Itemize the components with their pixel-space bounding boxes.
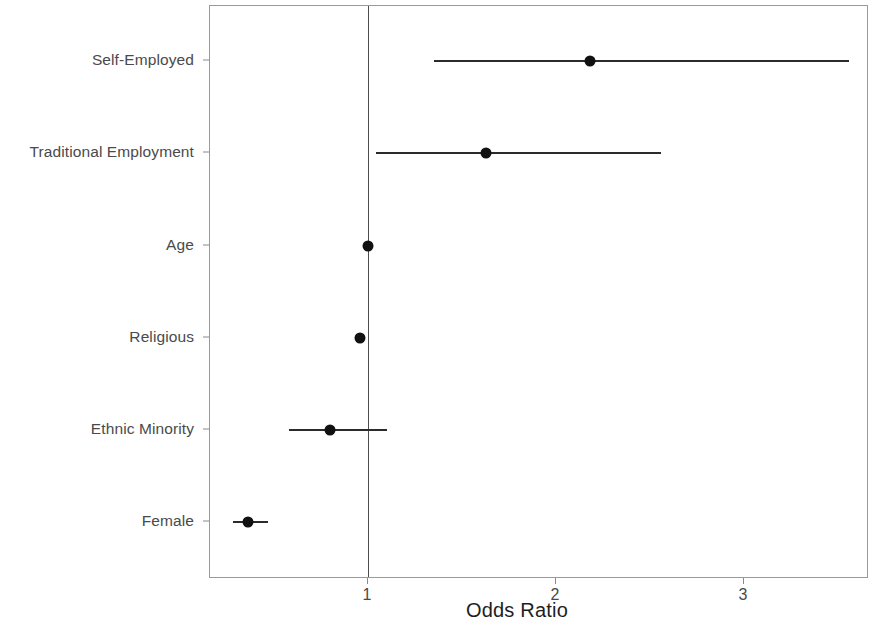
data-point-marker bbox=[242, 517, 253, 528]
plot-area bbox=[210, 6, 867, 577]
x-axis-title-text: Odds Ratio bbox=[466, 599, 568, 621]
y-axis-tick-label: Religious bbox=[129, 328, 194, 346]
y-axis-tick-label: Female bbox=[142, 512, 194, 530]
data-point-marker bbox=[355, 333, 366, 344]
data-point-marker bbox=[584, 56, 595, 67]
reference-line-or-1 bbox=[368, 6, 369, 577]
data-point-marker bbox=[481, 148, 492, 159]
confidence-interval-bar bbox=[289, 429, 387, 431]
plot-panel bbox=[209, 5, 868, 578]
x-axis-title: Odds Ratio bbox=[0, 599, 874, 622]
x-axis-tick-mark bbox=[367, 578, 368, 584]
y-axis-tick-label: Traditional Employment bbox=[30, 143, 194, 161]
y-axis-tick-label: Ethnic Minority bbox=[91, 420, 194, 438]
x-axis-tick-mark bbox=[555, 578, 556, 584]
x-axis-tick-mark bbox=[743, 578, 744, 584]
confidence-interval-bar bbox=[434, 60, 849, 62]
y-axis-tick-label: Self-Employed bbox=[92, 51, 194, 69]
data-point-marker bbox=[363, 241, 374, 252]
confidence-interval-bar bbox=[376, 152, 662, 154]
data-point-marker bbox=[325, 425, 336, 436]
forest-plot-figure: Self-EmployedTraditional EmploymentAgeRe… bbox=[0, 0, 874, 628]
y-axis-tick-label: Age bbox=[166, 236, 194, 254]
